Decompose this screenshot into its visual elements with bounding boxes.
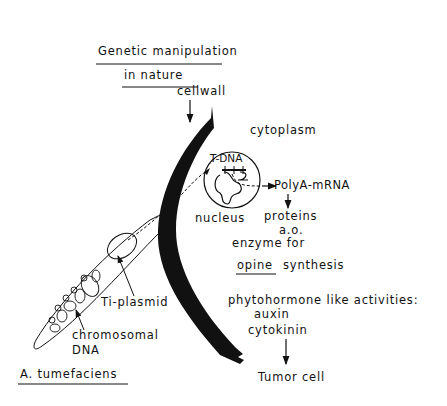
polya-mrna-label: PolyA-mRNA (274, 180, 350, 192)
title-line-2: in nature (124, 70, 183, 82)
nucleus-label: nucleus (195, 213, 245, 225)
organism-label: A. tumefaciens (20, 369, 117, 381)
synthesis-label: synthesis (283, 260, 344, 272)
ao-label: a.o. (279, 225, 303, 237)
ti-plasmid-circle (103, 228, 142, 264)
chromosomal-label: chromosomal (72, 330, 159, 342)
tdna-label: T-DNA (210, 153, 242, 164)
proteins-label: proteins (264, 211, 317, 223)
chromatin-icon (215, 172, 241, 204)
cellwall-label: cellwall (177, 86, 226, 98)
tumor-cell-label: Tumor cell (258, 372, 325, 384)
opine-label: opine (237, 260, 273, 272)
chromosomal-dna-icon (49, 270, 102, 332)
dna-label: DNA (72, 345, 100, 357)
auxin-label: auxin (254, 309, 290, 321)
cytoplasm-label: cytoplasm (250, 125, 317, 137)
enzyme-for-label: enzyme for (232, 238, 305, 250)
title-line-1: Genetic manipulation (98, 46, 238, 58)
cell-wall (158, 106, 244, 364)
ti-plasmid-label: Ti-plasmid (101, 297, 168, 309)
phytohormone-label: phytohormone like activities: (228, 295, 418, 307)
chromosomal-pointer-icon (76, 310, 84, 330)
diagram-canvas (0, 0, 447, 406)
cytokinin-label: cytokinin (248, 325, 308, 337)
